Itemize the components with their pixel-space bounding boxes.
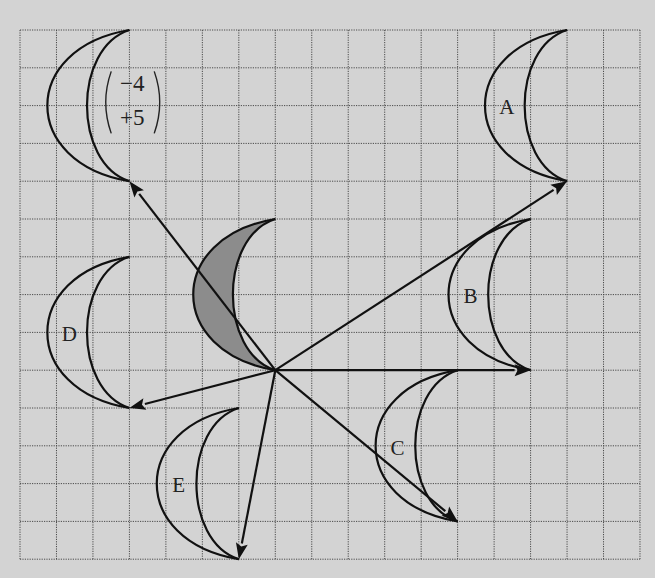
arrowhead-icon xyxy=(550,181,567,195)
left-parenthesis xyxy=(106,71,112,133)
vector-y-component: +5 xyxy=(120,105,144,130)
translation-vectors xyxy=(129,181,567,559)
translation-diagram: −4 +5 ABCDE xyxy=(0,0,655,578)
diagram-canvas: −4 +5 ABCDE xyxy=(0,0,655,578)
outer-arc xyxy=(485,30,567,181)
vector-arrow-E xyxy=(242,370,275,543)
vector-arrow-D xyxy=(145,370,275,404)
grid xyxy=(20,30,640,559)
arrowhead-icon xyxy=(236,542,248,559)
right-parenthesis xyxy=(154,71,160,133)
shape-label-E: E xyxy=(172,473,185,497)
vector-arrow-C xyxy=(275,370,445,511)
shape-label-D: D xyxy=(62,322,77,346)
vector-arrow-given xyxy=(139,194,275,370)
arrowhead-icon xyxy=(129,398,146,410)
image-A xyxy=(485,30,567,181)
vector-x-component: −4 xyxy=(120,71,145,96)
shape-label-B: B xyxy=(463,284,477,308)
shape-label-A: A xyxy=(499,95,515,119)
column-vector-label: −4 +5 xyxy=(106,71,160,133)
outer-arc xyxy=(449,219,531,370)
arrowhead-icon xyxy=(129,181,144,197)
image-B xyxy=(449,219,531,370)
shape-label-C: C xyxy=(390,436,404,460)
vector-arrow-A xyxy=(275,190,553,370)
